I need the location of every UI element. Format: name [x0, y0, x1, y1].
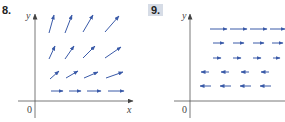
- vector-arrow: [105, 16, 119, 32]
- vector-arrow: [49, 15, 54, 33]
- origin-label: 0: [182, 104, 187, 115]
- vector-field-plots: [0, 0, 285, 122]
- plot-8-axes: [18, 14, 133, 118]
- origin-label: 0: [27, 104, 32, 115]
- y-axis-label: y: [26, 10, 30, 21]
- vector-arrow: [65, 15, 72, 33]
- plot-9-axes: [174, 14, 285, 118]
- vector-arrow: [105, 47, 121, 58]
- vector-arrow: [65, 46, 74, 59]
- plot-9-arrows: [200, 29, 285, 86]
- vector-arrow: [66, 71, 78, 78]
- vector-arrow: [83, 15, 93, 32]
- vector-arrow: [84, 72, 98, 78]
- vector-arrow: [106, 72, 123, 78]
- plot-8-arrows: [49, 15, 124, 91]
- vector-arrow: [83, 46, 95, 58]
- vector-arrow: [49, 46, 55, 59]
- x-axis-label: x: [127, 104, 131, 115]
- vector-arrow: [50, 71, 59, 79]
- y-axis-label: y: [182, 10, 186, 21]
